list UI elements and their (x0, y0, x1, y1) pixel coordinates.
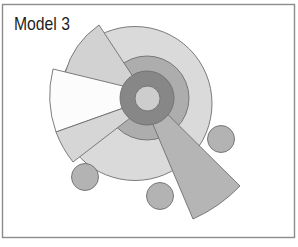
satellite-circle-left (72, 164, 99, 191)
core-circle (135, 86, 160, 111)
model-diagram: Model 3 (0, 0, 298, 247)
satellite-circle-bottom (147, 183, 174, 210)
diagram-title: Model 3 (14, 13, 70, 34)
diagram-canvas: Model 3 (0, 0, 298, 247)
satellite-circle-right (208, 126, 235, 153)
